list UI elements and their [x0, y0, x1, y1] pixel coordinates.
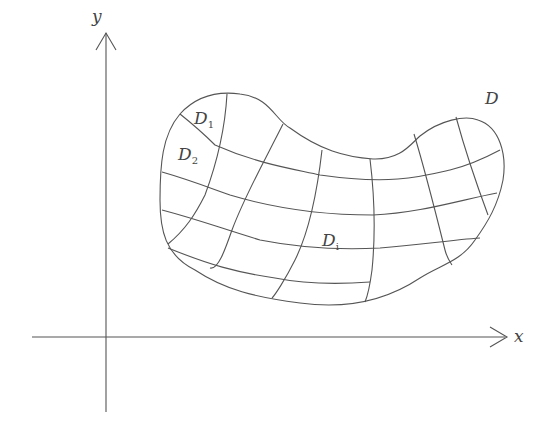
grid-curve-v5 — [414, 134, 452, 265]
x-axis-label: x — [514, 328, 524, 345]
grid-curve-h1 — [180, 114, 500, 180]
grid-curve-h2 — [162, 172, 497, 215]
diagram-svg — [0, 0, 547, 435]
diagram-canvas: y x D D1 D2 Di — [0, 0, 547, 435]
y-axis-label: y — [92, 8, 102, 25]
grid-curve-v2 — [210, 124, 283, 268]
grid-curve-v6 — [456, 117, 488, 215]
region-label: D — [485, 90, 499, 107]
grid-curve-v3 — [272, 150, 322, 298]
grid-curve-h3 — [162, 210, 480, 249]
subregion-label-d2: D2 — [178, 146, 198, 166]
subregion-label-d1: D1 — [194, 110, 214, 130]
subregion-label-di: Di — [322, 232, 339, 252]
grid-curve-h4 — [168, 248, 370, 283]
grid-curve-v4 — [365, 159, 374, 302]
